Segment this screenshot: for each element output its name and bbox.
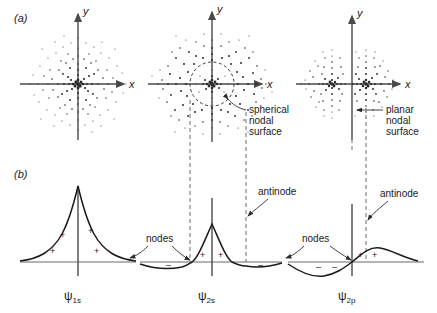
- sign-1s-2: +: [88, 226, 93, 236]
- wavefunction-2p: + + – – nodes antinode: [286, 188, 424, 276]
- spherical-nodal-surface-label: spherical nodal surface: [249, 104, 289, 137]
- row-label-b: (b): [14, 168, 28, 180]
- cloud-1s: x y: [20, 5, 135, 140]
- x-axis-label-2p: x: [404, 78, 411, 90]
- sign-1s-3: +: [50, 246, 55, 256]
- spherical-nodal-line-3: surface: [249, 126, 282, 137]
- psi-symbol-1s: ψ: [64, 289, 73, 303]
- antinode-leader-2s: [248, 199, 268, 216]
- psi-label-1s: ψ1s: [64, 289, 81, 305]
- spherical-nodal-line-2: nodal: [249, 115, 273, 126]
- sign-1s-4: +: [94, 246, 99, 256]
- x-axis-label-2s: x: [266, 78, 273, 90]
- antinode-label-2s: antinode: [258, 186, 297, 197]
- nodes-label-2p: nodes: [302, 233, 329, 244]
- psi-label-2p: ψ2p: [338, 289, 356, 305]
- sign-2p-pos-2: +: [372, 250, 377, 260]
- spherical-nodal-line-1: spherical: [249, 104, 289, 115]
- row-label-a: (a): [14, 12, 28, 24]
- psi-symbol-2p: ψ: [338, 289, 347, 303]
- nodes-leader-2p-left: [286, 246, 304, 258]
- sign-2p-neg-2: –: [332, 262, 337, 272]
- planar-nodal-line-1: planar: [386, 104, 414, 115]
- psi-symbol-2s: ψ: [198, 289, 207, 303]
- y-axis-label-1s: y: [82, 5, 90, 17]
- psi-label-2s: ψ2s: [198, 289, 215, 305]
- sign-2s-neg-1: –: [166, 260, 171, 270]
- sign-2s-pos-2: +: [218, 250, 223, 260]
- planar-nodal-line-3: surface: [386, 126, 419, 137]
- y-axis-label-2s: y: [216, 3, 224, 15]
- orbital-figure: (a) (b) x y: [0, 0, 437, 313]
- psi-subscript-2s: 2s: [207, 296, 215, 305]
- sign-1s-1: +: [60, 230, 65, 240]
- sign-2p-neg-1: –: [316, 262, 321, 272]
- psi-subscript-2p: 2p: [347, 296, 356, 305]
- sign-2s-neg-2: –: [258, 260, 263, 270]
- psi-subscript-1s: 1s: [73, 296, 81, 305]
- wavefunction-1s: + + + +: [20, 186, 136, 276]
- antinode-leader-2p: [368, 201, 388, 220]
- planar-nodal-line-2: nodal: [386, 115, 410, 126]
- antinode-label-2p: antinode: [380, 188, 419, 199]
- planar-nodal-surface-label: planar nodal surface: [386, 104, 419, 137]
- nodes-label-2s: nodes: [146, 233, 173, 244]
- nodes-leader-2p-right: [330, 246, 351, 260]
- nodes-leader-2s-right: [172, 246, 190, 260]
- sign-2s-pos-1: +: [200, 250, 205, 260]
- sign-2p-pos-1: +: [358, 250, 363, 260]
- wavefunction-2s: + + – – nodes antinode: [130, 186, 297, 276]
- y-axis-label-2p: y: [356, 7, 364, 19]
- nodes-leader-2s-left: [130, 246, 148, 258]
- x-axis-label-1s: x: [128, 78, 135, 90]
